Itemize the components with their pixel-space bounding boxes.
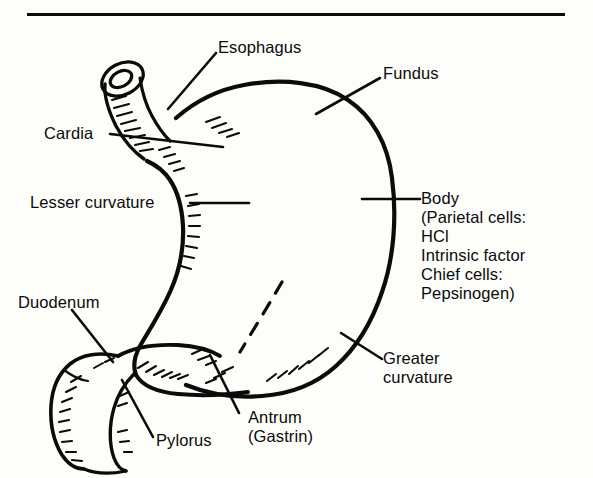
antrum-upper-border — [118, 345, 220, 356]
antrum-lower-border — [136, 375, 248, 395]
label-duodenum: Duodenum — [18, 293, 100, 312]
leader-antrum — [210, 355, 239, 413]
hatching-fundus-inferior — [206, 117, 239, 137]
leader-esophagus — [168, 53, 216, 109]
label-lesser-curvature: Lesser curvature — [30, 193, 155, 212]
esophagus-wall-anterior — [140, 78, 170, 141]
label-cardia: Cardia — [44, 124, 93, 143]
label-fundus: Fundus — [383, 64, 439, 83]
label-esophagus: Esophagus — [218, 38, 301, 57]
label-pylorus: Pylorus — [156, 431, 212, 450]
label-greater-curvature: Greater curvature — [383, 349, 453, 387]
label-body: Body (Parietal cells: HCl Intrinsic fact… — [421, 189, 526, 303]
leader-fundus — [316, 78, 380, 114]
hatching-cardia — [159, 147, 184, 171]
esophagus-lumen-inner — [107, 67, 134, 91]
hatching-greater-curvature-lower — [206, 348, 328, 383]
body-antrum-boundary-dashed — [240, 282, 282, 352]
hatching-pyloric-border — [138, 362, 188, 379]
duodenum-inner-wall — [110, 374, 134, 471]
label-antrum: Antrum (Gastrin) — [248, 408, 313, 446]
